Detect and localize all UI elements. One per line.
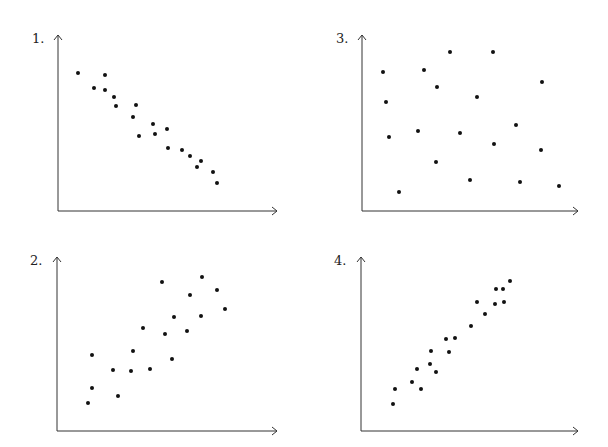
data-point (419, 387, 423, 391)
data-point (170, 357, 174, 361)
data-point (137, 134, 141, 138)
data-point (493, 302, 497, 306)
data-point (114, 104, 118, 108)
data-point (468, 178, 472, 182)
data-point (415, 367, 419, 371)
data-point (103, 73, 107, 77)
data-point (112, 95, 116, 99)
scatter-plot-1: 1. (32, 31, 277, 215)
data-point (391, 402, 395, 406)
data-point (134, 103, 138, 107)
data-point (90, 353, 94, 357)
data-point (458, 131, 462, 135)
data-point (514, 123, 518, 127)
data-point (410, 380, 414, 384)
data-point (508, 279, 512, 283)
data-point (384, 100, 388, 104)
data-point (185, 329, 189, 333)
data-point (444, 337, 448, 341)
data-point (151, 122, 155, 126)
data-point (416, 129, 420, 133)
data-point (129, 369, 133, 373)
data-point (453, 336, 457, 340)
data-point (195, 165, 199, 169)
plot-label: 3. (336, 31, 348, 46)
data-point (492, 142, 496, 146)
data-point (483, 312, 487, 316)
data-point (557, 184, 561, 188)
scatter-plot-2: 2. (30, 253, 277, 435)
data-point (200, 275, 204, 279)
data-point (539, 148, 543, 152)
data-point (215, 288, 219, 292)
plot-label: 4. (334, 253, 346, 268)
data-point (215, 181, 219, 185)
data-point (540, 80, 544, 84)
plot-label: 2. (30, 253, 42, 268)
data-point (501, 287, 505, 291)
data-point (434, 160, 438, 164)
data-point (502, 300, 506, 304)
data-point (434, 370, 438, 374)
data-point (92, 86, 96, 90)
data-point (188, 154, 192, 158)
data-point (422, 68, 426, 72)
data-point (518, 180, 522, 184)
data-point (111, 368, 115, 372)
data-point (393, 387, 397, 391)
data-point (381, 70, 385, 74)
data-point (199, 314, 203, 318)
data-point (491, 50, 495, 54)
data-point (494, 287, 498, 291)
data-point (199, 159, 203, 163)
data-point (475, 300, 479, 304)
data-point (76, 71, 80, 75)
data-point (131, 115, 135, 119)
data-point (188, 293, 192, 297)
scatter-canvas: 1.2.3.4. (0, 0, 608, 447)
data-point (86, 401, 90, 405)
scatter-plot-4: 4. (334, 253, 578, 435)
data-point (116, 394, 120, 398)
data-point (429, 349, 433, 353)
data-point (448, 50, 452, 54)
data-point (160, 280, 164, 284)
data-point (163, 332, 167, 336)
data-point (103, 88, 107, 92)
data-point (165, 127, 169, 131)
data-point (166, 146, 170, 150)
data-point (172, 315, 176, 319)
data-point (435, 85, 439, 89)
data-point (131, 349, 135, 353)
data-point (211, 170, 215, 174)
data-point (180, 148, 184, 152)
data-point (141, 326, 145, 330)
data-point (223, 307, 227, 311)
data-point (387, 135, 391, 139)
data-point (475, 95, 479, 99)
data-point (469, 324, 473, 328)
plot-label: 1. (32, 31, 44, 46)
data-point (447, 350, 451, 354)
data-point (153, 132, 157, 136)
data-point (90, 386, 94, 390)
scatter-plot-3: 3. (336, 31, 578, 215)
data-point (428, 362, 432, 366)
data-point (148, 367, 152, 371)
data-point (397, 190, 401, 194)
